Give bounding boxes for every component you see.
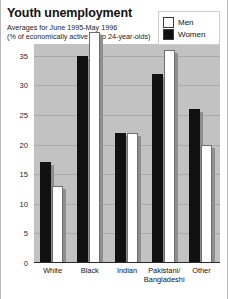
y-axis-tick-label: 10 xyxy=(20,199,28,208)
x-axis-tick-label-line1: Other xyxy=(175,266,228,275)
y-axis-tick-label: 20 xyxy=(20,140,28,149)
y-axis: 05101520253035 xyxy=(0,44,32,263)
bar-shadow xyxy=(100,35,103,263)
legend-label-men: Men xyxy=(178,17,194,28)
bar-shadow xyxy=(212,148,215,263)
y-axis-tick-label: 15 xyxy=(20,170,28,179)
x-axis-tick-label: Other xyxy=(175,266,228,275)
bar-men-black xyxy=(89,32,100,263)
white-square-swatch-icon xyxy=(163,17,174,28)
bar-women-white xyxy=(40,162,51,263)
legend-item-women: Women xyxy=(163,28,215,40)
x-axis-tick-label-line2: Bangladeshi xyxy=(138,275,191,284)
legend-item-men: Men xyxy=(163,16,215,28)
page-edge-right xyxy=(227,0,228,299)
black-square-swatch-icon xyxy=(163,29,174,40)
y-axis-tick-label: 5 xyxy=(24,229,28,238)
chart-legend: Men Women xyxy=(158,11,220,45)
legend-label-women: Women xyxy=(178,29,205,40)
gridline xyxy=(34,85,220,86)
bar-women-black xyxy=(77,56,88,263)
x-axis: WhiteBlackIndianPakistani/BangladeshiOth… xyxy=(34,266,220,296)
bar-men-pakistani-bangladeshi xyxy=(164,50,175,263)
bar-women-other xyxy=(189,109,200,263)
bar-men-white xyxy=(52,186,63,263)
y-axis-tick-label: 35 xyxy=(20,51,28,60)
chart-figure: Youth unemployment Averages for June 199… xyxy=(0,0,228,299)
plot-area xyxy=(34,44,220,263)
y-axis-tick-label: 25 xyxy=(20,111,28,120)
bar-women-pakistani-bangladeshi xyxy=(152,74,163,263)
y-axis-tick-label: 30 xyxy=(20,81,28,90)
bar-women-indian xyxy=(115,133,126,263)
gridline xyxy=(34,56,220,57)
bar-shadow xyxy=(175,53,178,263)
bar-men-indian xyxy=(127,133,138,263)
bar-men-other xyxy=(201,145,212,263)
bar-shadow xyxy=(63,189,66,263)
x-axis-baseline xyxy=(34,262,220,263)
chart-title: Youth unemployment xyxy=(7,6,177,20)
bar-shadow xyxy=(138,136,141,263)
chart-subtitle-line1: Averages for June 1995-May 1996 xyxy=(7,23,177,32)
